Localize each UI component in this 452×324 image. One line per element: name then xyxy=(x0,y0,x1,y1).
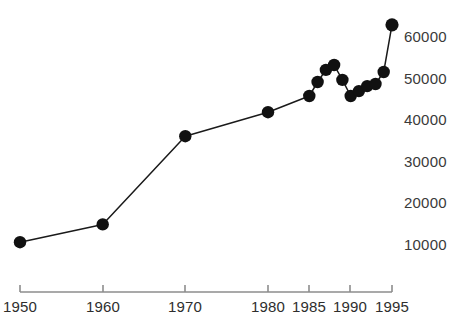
data-point xyxy=(303,90,315,102)
y-tick-label-40000: 40000 xyxy=(404,111,447,128)
data-point xyxy=(385,18,398,31)
data-point xyxy=(369,78,381,90)
data-point xyxy=(97,218,109,230)
x-tick-label-1970: 1970 xyxy=(168,298,202,315)
data-point xyxy=(336,74,348,86)
x-tick-label-1995: 1995 xyxy=(375,298,409,315)
y-tick-label-30000: 30000 xyxy=(404,153,447,170)
x-tick-label-1990: 1990 xyxy=(333,298,367,315)
y-tick-label-60000: 60000 xyxy=(404,28,447,45)
data-point-markers xyxy=(14,18,399,248)
line-chart-plot xyxy=(0,0,452,324)
x-tick-label-1950: 1950 xyxy=(3,298,37,315)
x-tick-label-1960: 1960 xyxy=(86,298,120,315)
chart-container: 60000 50000 40000 30000 20000 10000 1950… xyxy=(0,0,452,324)
x-tick-label-1980: 1980 xyxy=(251,298,285,315)
data-line xyxy=(20,25,392,242)
data-point xyxy=(179,130,191,142)
clipped-caption-artifact xyxy=(0,316,452,324)
y-tick-label-10000: 10000 xyxy=(404,236,447,253)
data-point xyxy=(262,106,274,118)
data-point xyxy=(311,76,323,88)
y-tick-label-20000: 20000 xyxy=(404,194,447,211)
data-point xyxy=(14,236,26,248)
x-axis-line xyxy=(20,285,392,292)
x-tick-label-1985: 1985 xyxy=(292,298,326,315)
x-axis xyxy=(20,285,392,292)
data-point xyxy=(328,59,340,71)
y-tick-label-50000: 50000 xyxy=(404,70,447,87)
data-point xyxy=(378,66,390,78)
